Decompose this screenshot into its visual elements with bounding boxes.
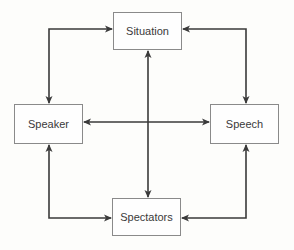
edge-situation-speech	[183, 29, 246, 103]
node-speaker-label: Speaker	[28, 118, 69, 130]
edge-speech-spectators	[182, 145, 246, 218]
diagram-canvas: Situation Speaker Speech Spectators	[0, 0, 294, 250]
node-speaker: Speaker	[14, 104, 83, 144]
node-spectators-label: Spectators	[120, 211, 173, 223]
edge-situation-speaker	[49, 29, 112, 103]
node-situation: Situation	[113, 12, 182, 50]
edge-speaker-spectators	[49, 145, 111, 218]
node-spectators: Spectators	[112, 198, 181, 236]
node-speech: Speech	[210, 104, 279, 144]
node-situation-label: Situation	[126, 25, 169, 37]
node-speech-label: Speech	[226, 118, 263, 130]
